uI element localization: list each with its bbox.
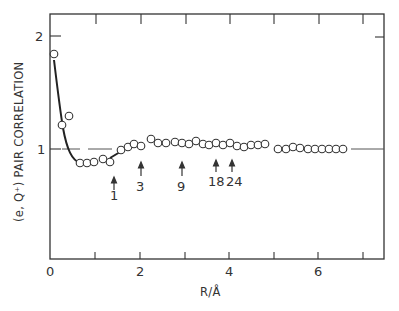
x-tick-label-0: 0 [46, 264, 54, 279]
y-tick-label-2: 2 [35, 29, 43, 44]
x-axis-ticks-bottom [95, 252, 363, 259]
annotation-label-3: 3 [136, 179, 144, 194]
x-tick-label-6: 6 [314, 264, 322, 279]
arrow-up-icon-3 [139, 162, 144, 176]
plot-frame [50, 14, 384, 259]
y-axis-title: (e, Q⁺) PAIR CORRELATION [12, 62, 26, 222]
y-tick-label-1: 1 [37, 142, 45, 157]
x-axis-ticks-top [96, 14, 363, 24]
annotation-label-1: 1 [110, 188, 118, 203]
arrow-up-icon-9 [180, 162, 185, 176]
annotation-label-18: 18 [208, 174, 225, 189]
arrow-up-icon-24 [230, 160, 235, 172]
x-tick-label-4: 4 [225, 264, 233, 279]
x-tick-label-2: 2 [136, 264, 144, 279]
x-axis-title: R/Å [200, 284, 221, 299]
fitted-curve [54, 60, 80, 163]
arrow-up-icon-18 [214, 160, 219, 172]
pair-correlation-chart: 0 2 4 6 2 1 R/Å (e, Q⁺) PAIR CORRELATION [0, 0, 399, 311]
annotation-label-24: 24 [226, 174, 243, 189]
annotation-label-9: 9 [177, 179, 185, 194]
y-axis-ticks [50, 36, 384, 149]
